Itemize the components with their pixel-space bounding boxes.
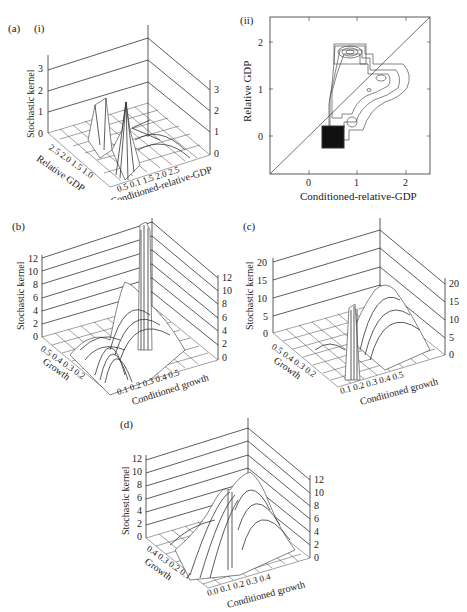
- panel-d: (d) 121086 420 121086 420 S: [120, 410, 360, 612]
- svg-text:3: 3: [214, 84, 219, 95]
- svg-text:4: 4: [33, 305, 38, 316]
- svg-text:12: 12: [28, 253, 38, 264]
- svg-text:6: 6: [222, 312, 227, 323]
- svg-text:2: 2: [314, 539, 319, 550]
- panel-b: (b) 121086 420 121086 420: [0, 200, 240, 410]
- svg-text:1: 1: [258, 84, 263, 95]
- panel-a-i: (a) (i) 3210 3210: [0, 0, 240, 200]
- svg-text:0: 0: [258, 131, 263, 142]
- svg-text:10: 10: [314, 487, 324, 498]
- z-axis-label: Stochastic kernel: [120, 466, 131, 535]
- z-axis-label: Stochastic kernel: [15, 261, 26, 330]
- svg-text:0: 0: [306, 177, 311, 188]
- surface-plot-a-i: 3210 3210 Stochastic kernel 2.5 2.0 1.5 …: [0, 0, 240, 200]
- svg-text:0: 0: [137, 531, 142, 542]
- surface-plot-c: 20151050 20151050 Stochastic kernel 0.5 …: [235, 200, 467, 410]
- panel-c: (c) 20151050 20151050 Stochastic kernel: [235, 200, 467, 410]
- svg-text:0: 0: [222, 352, 227, 363]
- svg-text:1: 1: [354, 177, 359, 188]
- svg-text:3: 3: [38, 63, 43, 74]
- surface-plot-d: 121086 420 121086 420 Stochastic kernel …: [120, 410, 360, 612]
- svg-text:6: 6: [137, 492, 142, 503]
- svg-text:0: 0: [449, 349, 454, 360]
- svg-text:2: 2: [258, 37, 263, 48]
- svg-text:12: 12: [314, 474, 324, 485]
- svg-text:6: 6: [314, 513, 319, 524]
- svg-text:6: 6: [33, 292, 38, 303]
- svg-text:2: 2: [38, 85, 43, 96]
- svg-text:12: 12: [222, 272, 232, 283]
- z-axis-label: Stochastic kernel: [244, 261, 255, 330]
- svg-text:2: 2: [222, 338, 227, 349]
- panel-a-ii: (ii) 210 012 Conditioned-relative-GDP Re…: [240, 0, 467, 220]
- svg-text:10: 10: [257, 293, 267, 304]
- svg-text:10: 10: [222, 285, 232, 296]
- svg-text:4: 4: [314, 526, 319, 537]
- svg-text:0: 0: [38, 128, 43, 139]
- svg-text:2: 2: [33, 318, 38, 329]
- svg-text:10: 10: [132, 466, 142, 477]
- svg-text:0: 0: [314, 552, 319, 563]
- svg-text:8: 8: [137, 479, 142, 490]
- svg-text:8: 8: [222, 298, 227, 309]
- svg-text:1: 1: [214, 126, 219, 137]
- svg-text:0: 0: [33, 331, 38, 342]
- contour-plot-a-ii: 210 012 Conditioned-relative-GDP Relativ…: [240, 0, 467, 220]
- y-axis-label: Relative GDP: [241, 61, 253, 122]
- svg-text:15: 15: [449, 296, 459, 307]
- svg-text:0: 0: [263, 328, 268, 339]
- svg-text:0: 0: [214, 148, 219, 159]
- svg-text:2: 2: [137, 518, 142, 529]
- svg-text:5: 5: [263, 311, 268, 322]
- svg-text:1: 1: [38, 106, 43, 117]
- svg-text:2: 2: [403, 177, 408, 188]
- svg-text:8: 8: [314, 500, 319, 511]
- svg-text:10: 10: [449, 314, 459, 325]
- svg-text:5: 5: [449, 332, 454, 343]
- z-axis-label: Stochastic kernel: [25, 69, 36, 138]
- svg-text:4: 4: [137, 505, 142, 516]
- svg-text:2: 2: [214, 105, 219, 116]
- svg-text:20: 20: [449, 278, 459, 289]
- svg-text:12: 12: [132, 453, 142, 464]
- surface-plot-b: 121086 420 121086 420 Stochastic kernel …: [0, 200, 240, 410]
- svg-text:10: 10: [28, 266, 38, 277]
- svg-text:15: 15: [257, 275, 267, 286]
- svg-text:20: 20: [257, 257, 267, 268]
- svg-text:8: 8: [33, 279, 38, 290]
- svg-text:4: 4: [222, 325, 227, 336]
